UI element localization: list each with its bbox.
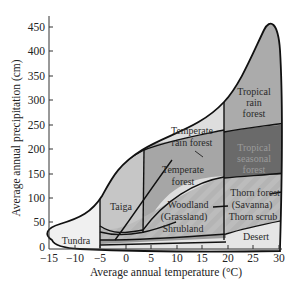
y-tick-100: 100 — [28, 192, 46, 204]
label-shrubland: Shrubland — [162, 223, 203, 234]
label-taiga: Taiga — [110, 201, 133, 212]
y-tick-150: 150 — [28, 168, 46, 180]
y-tick-450: 450 — [28, 21, 46, 33]
label-desert: Desert — [243, 231, 269, 242]
y-axis-title: Average annual precipitation (cm) — [10, 59, 23, 216]
y-tick-50: 50 — [34, 216, 46, 228]
y-tick-200: 200 — [28, 143, 46, 155]
label-temperate-rain-forest-2: rain forest — [172, 137, 213, 148]
x-tick-0: 0 — [123, 252, 129, 264]
y-tick-300: 300 — [28, 94, 46, 106]
label-woodland: Woodland — [168, 199, 209, 210]
y-tick-250: 250 — [28, 119, 46, 131]
label-tropical-rain-forest-3: forest — [243, 108, 266, 119]
x-tick--10: −10 — [66, 252, 84, 264]
x-tick-30: 30 — [273, 252, 285, 264]
label-tropical-rain-forest-1: Tropical — [237, 86, 271, 97]
label-tundra: Tundra — [62, 235, 91, 246]
label-tropical-rain-forest-2: rain — [246, 97, 262, 108]
label-tropical-seasonal-2: seasonal — [237, 153, 271, 164]
y-tick-350: 350 — [28, 70, 46, 82]
label-temperate-forest-1: Temperate — [162, 164, 205, 175]
y-tick-400: 400 — [28, 45, 46, 57]
label-savanna: (Savanna) — [232, 199, 273, 211]
label-temperate-rain-forest-1: Temperate — [171, 125, 214, 136]
x-tick-5: 5 — [148, 252, 154, 264]
biome-diagram: 450 400 350 300 250 200 150 100 50 0 −15… — [0, 0, 293, 285]
x-tick-15: 15 — [196, 252, 208, 264]
x-axis-title: Average annual temperature (°C) — [90, 266, 242, 279]
label-thorn-scrub: Thorn scrub — [229, 211, 278, 222]
label-grassland: (Grassland) — [161, 211, 208, 223]
label-thorn-forest: Thorn forest — [230, 187, 280, 198]
x-tick--15: −15 — [40, 252, 58, 264]
x-tick--5: −5 — [94, 252, 106, 264]
label-tropical-seasonal-3: forest — [243, 164, 266, 175]
x-tick-10: 10 — [171, 252, 183, 264]
x-tick-20: 20 — [222, 252, 234, 264]
x-tick-25: 25 — [247, 252, 259, 264]
label-temperate-forest-2: forest — [172, 176, 195, 187]
label-tropical-seasonal-1: Tropical — [237, 142, 271, 153]
